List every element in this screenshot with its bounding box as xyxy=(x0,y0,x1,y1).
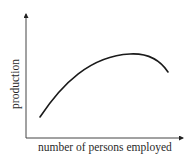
x-axis-label: number of persons employed xyxy=(38,141,163,153)
chart-canvas xyxy=(0,0,190,163)
y-axis-label: production xyxy=(9,59,21,109)
production-curve xyxy=(40,54,168,117)
